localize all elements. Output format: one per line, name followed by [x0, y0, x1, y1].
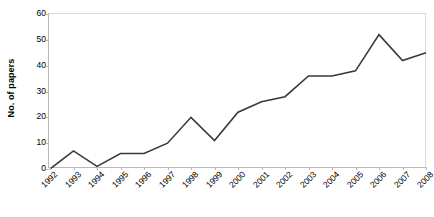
x-tick-label: 1998 — [174, 170, 200, 196]
y-tick-mark — [46, 66, 49, 67]
y-tick-mark — [46, 92, 49, 93]
y-axis-title-text: No. of papers — [6, 58, 16, 117]
x-tick-label: 2006 — [362, 170, 388, 196]
plot-area — [48, 13, 426, 168]
y-axis-title: No. of papers — [0, 0, 22, 175]
chart-container: No. of papers 0102030405060 199219931994… — [0, 0, 434, 217]
y-tick-label: 0 — [24, 164, 46, 173]
x-tick-label: 1999 — [198, 170, 224, 196]
x-tick-label: 2004 — [315, 170, 341, 196]
data-line — [50, 35, 426, 169]
x-tick-label: 2008 — [409, 170, 434, 196]
line-series-svg — [49, 14, 427, 169]
x-tick-label: 1994 — [80, 170, 106, 196]
x-tick-label: 2007 — [386, 170, 412, 196]
y-tick-label: 10 — [24, 138, 46, 147]
x-tick-label: 1996 — [127, 170, 153, 196]
y-tick-label: 50 — [24, 35, 46, 44]
x-tick-label: 1997 — [151, 170, 177, 196]
y-tick-mark — [46, 143, 49, 144]
x-tick-label: 2003 — [292, 170, 318, 196]
y-tick-label: 30 — [24, 86, 46, 95]
y-tick-label: 40 — [24, 60, 46, 69]
x-axis-tick-labels: 1992199319941995199619971998199920002001… — [48, 170, 428, 217]
x-tick-label: 2000 — [221, 170, 247, 196]
y-axis-tick-labels: 0102030405060 — [22, 0, 46, 175]
y-tick-label: 20 — [24, 112, 46, 121]
x-tick-label: 1993 — [57, 170, 83, 196]
x-tick-label: 2001 — [245, 170, 271, 196]
y-tick-label: 60 — [24, 9, 46, 18]
y-tick-mark — [46, 40, 49, 41]
y-tick-mark — [46, 14, 49, 15]
x-tick-label: 2005 — [339, 170, 365, 196]
x-tick-label: 2002 — [268, 170, 294, 196]
y-tick-mark — [46, 117, 49, 118]
x-tick-label: 1995 — [104, 170, 130, 196]
